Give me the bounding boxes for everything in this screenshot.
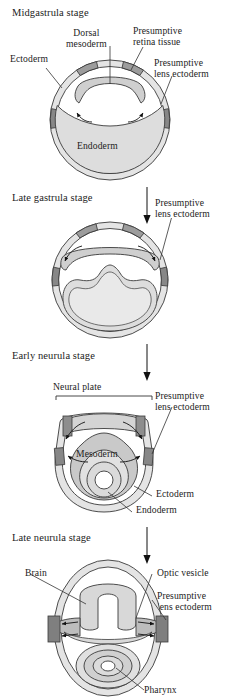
figure-root: Midgastrula stage Dorsal mesoderm Presum… <box>0 0 239 700</box>
connector-arrow-2 <box>0 342 239 384</box>
late-neurula-drawing <box>0 556 239 700</box>
label-pharynx: Pharynx <box>144 685 177 696</box>
presumptive-lens-patch-right-p3 <box>143 448 153 466</box>
label-endoderm-p3: Endoderm <box>136 505 177 516</box>
neural-plate-bracket <box>56 396 152 400</box>
label-mesoderm-p3: Mesoderm <box>76 449 118 460</box>
stage-title-late-neurula: Late neurula stage <box>12 532 91 544</box>
label-endoderm-p1: Endoderm <box>77 141 118 152</box>
label-ectoderm-p3: Ectoderm <box>156 489 194 500</box>
late-gastrula-drawing <box>0 218 239 343</box>
panel-midgastrula <box>0 0 239 190</box>
midgastrula-drawing <box>0 0 239 190</box>
panel-late-neurula <box>0 556 239 700</box>
presumptive-lens-block-right <box>156 616 168 642</box>
leader-lens-p2 <box>160 218 172 260</box>
stage-title-early-neurula: Early neurula stage <box>12 350 95 362</box>
leader-lens-p3 <box>152 407 172 454</box>
stage-title-late-gastrula: Late gastrula stage <box>12 192 93 204</box>
panel-late-gastrula <box>0 218 239 343</box>
archenteron-lumen-p3 <box>95 471 113 489</box>
leader-ectoderm-p1 <box>46 68 62 88</box>
presumptive-retina-fold-right <box>136 416 145 436</box>
early-neurula-drawing <box>0 392 239 522</box>
presumptive-retina-fold-left <box>63 416 72 436</box>
panel-early-neurula <box>0 392 239 522</box>
presumptive-lens-block-left <box>48 616 60 642</box>
label-presumptive-lens-ectoderm-p2: Presumptive lens ectoderm <box>155 198 210 219</box>
presumptive-lens-patch-left-p3 <box>54 448 64 466</box>
pharynx-lumen <box>101 661 115 671</box>
